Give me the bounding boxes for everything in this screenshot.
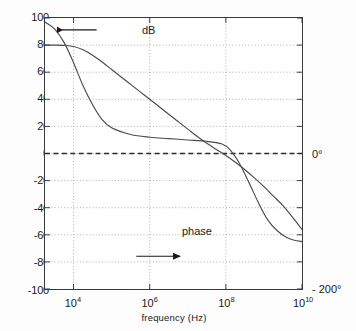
bode-plot-figure: 100806040200-20-40-60-80-100 dB phase 10… — [0, 0, 356, 331]
y-tick-minus100: -100 — [9, 285, 49, 296]
x-tick-10e6: 106 — [141, 294, 157, 309]
db-annotation-label: dB — [142, 25, 155, 36]
y-tick-minus80: -80 — [9, 257, 49, 268]
x-tick-10e10: 1010 — [293, 294, 313, 309]
phase-annotation-label: phase — [182, 226, 212, 237]
y-tick-40: 40 — [9, 93, 49, 104]
y-tick-20: 20 — [9, 121, 49, 132]
right-axis-label-minus200: - 200° — [312, 284, 341, 295]
x-axis-title: frequency (Hz) — [141, 312, 206, 323]
y-tick-minus40: -40 — [9, 203, 49, 214]
y-tick-80: 80 — [9, 39, 49, 50]
y-tick-100: 100 — [9, 12, 49, 23]
right-axis-label-zero: 0° — [312, 149, 323, 160]
y-tick-minus20: -20 — [9, 175, 49, 186]
annotation-arrows — [45, 18, 302, 289]
x-tick-10e8: 108 — [218, 294, 234, 309]
y-tick-0: 0 — [9, 148, 49, 159]
x-tick-10e4: 104 — [65, 294, 81, 309]
y-tick-60: 60 — [9, 66, 49, 77]
y-tick-minus60: -60 — [9, 230, 49, 241]
plot-area: dB phase — [44, 17, 303, 290]
